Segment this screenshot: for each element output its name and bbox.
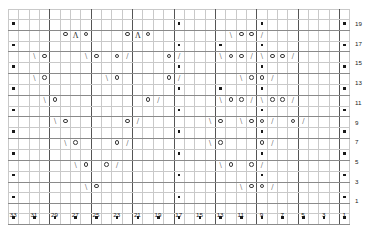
chart-cell[interactable] (143, 139, 153, 150)
chart-cell[interactable]: \ (205, 117, 215, 128)
chart-cell[interactable] (91, 182, 101, 193)
chart-cell[interactable] (236, 63, 246, 74)
chart-cell[interactable] (91, 10, 101, 20)
chart-cell[interactable] (60, 84, 70, 95)
chart-cell[interactable]: / (153, 95, 163, 106)
chart-cell[interactable] (257, 84, 267, 95)
chart-cell[interactable] (122, 74, 132, 85)
chart-cell[interactable] (298, 74, 308, 85)
chart-cell[interactable] (308, 95, 318, 106)
chart-cell[interactable] (71, 128, 81, 139)
chart-cell[interactable] (102, 106, 112, 117)
chart-cell[interactable] (236, 160, 246, 171)
chart-cell[interactable] (329, 106, 339, 117)
chart-cell[interactable] (267, 171, 277, 182)
chart-cell[interactable] (215, 84, 225, 95)
chart-cell[interactable]: / (257, 30, 267, 41)
chart-cell[interactable] (288, 41, 298, 52)
chart-cell[interactable] (91, 30, 101, 41)
chart-cell[interactable] (319, 160, 329, 171)
chart-cell[interactable] (215, 171, 225, 182)
chart-cell[interactable] (133, 171, 143, 182)
chart-cell[interactable] (277, 117, 287, 128)
chart-cell[interactable] (267, 19, 277, 30)
chart-cell[interactable] (277, 106, 287, 117)
chart-cell[interactable] (267, 149, 277, 160)
chart-cell[interactable] (60, 30, 70, 41)
chart-cell[interactable] (133, 10, 143, 20)
chart-cell[interactable] (308, 10, 318, 20)
chart-cell[interactable] (184, 63, 194, 74)
chart-cell[interactable] (19, 160, 29, 171)
chart-cell[interactable] (308, 182, 318, 193)
chart-cell[interactable] (257, 106, 267, 117)
chart-cell[interactable] (277, 182, 287, 193)
chart-cell[interactable] (29, 30, 39, 41)
chart-cell[interactable] (91, 160, 101, 171)
chart-cell[interactable] (288, 128, 298, 139)
chart-cell[interactable] (298, 84, 308, 95)
chart-cell[interactable] (19, 84, 29, 95)
chart-cell[interactable] (29, 128, 39, 139)
chart-cell[interactable] (329, 41, 339, 52)
chart-cell[interactable] (9, 106, 19, 117)
chart-cell[interactable] (329, 30, 339, 41)
chart-cell[interactable]: / (174, 52, 184, 63)
chart-cell[interactable] (153, 128, 163, 139)
chart-cell[interactable] (164, 30, 174, 41)
chart-cell[interactable] (60, 149, 70, 160)
chart-cell[interactable] (122, 106, 132, 117)
chart-cell[interactable]: \ (236, 182, 246, 193)
chart-cell[interactable]: \ (236, 74, 246, 85)
chart-cell[interactable] (9, 149, 19, 160)
chart-cell[interactable] (112, 74, 122, 85)
chart-cell[interactable] (40, 182, 50, 193)
chart-cell[interactable]: Λ (133, 30, 143, 41)
chart-cell[interactable] (133, 95, 143, 106)
chart-cell[interactable] (246, 19, 256, 30)
chart-cell[interactable]: \ (205, 139, 215, 150)
chart-cell[interactable] (164, 193, 174, 204)
chart-cell[interactable] (81, 63, 91, 74)
chart-cell[interactable] (112, 117, 122, 128)
chart-cell[interactable] (50, 30, 60, 41)
chart-cell[interactable] (184, 19, 194, 30)
chart-cell[interactable] (329, 84, 339, 95)
chart-cell[interactable] (340, 30, 350, 41)
chart-cell[interactable] (19, 128, 29, 139)
chart-cell[interactable] (91, 106, 101, 117)
chart-cell[interactable] (184, 84, 194, 95)
chart-cell[interactable] (102, 30, 112, 41)
chart-cell[interactable] (277, 10, 287, 20)
chart-cell[interactable] (50, 52, 60, 63)
chart-cell[interactable] (288, 63, 298, 74)
chart-cell[interactable]: \ (215, 52, 225, 63)
chart-cell[interactable] (226, 63, 236, 74)
chart-cell[interactable] (174, 149, 184, 160)
chart-cell[interactable] (153, 74, 163, 85)
chart-cell[interactable] (319, 74, 329, 85)
chart-cell[interactable] (226, 52, 236, 63)
chart-cell[interactable] (195, 10, 205, 20)
chart-cell[interactable] (340, 160, 350, 171)
chart-cell[interactable]: / (267, 74, 277, 85)
chart-cell[interactable]: / (133, 117, 143, 128)
chart-cell[interactable] (277, 139, 287, 150)
chart-cell[interactable] (143, 160, 153, 171)
chart-cell[interactable] (184, 106, 194, 117)
chart-cell[interactable] (205, 149, 215, 160)
chart-cell[interactable] (102, 139, 112, 150)
chart-cell[interactable] (133, 149, 143, 160)
chart-cell[interactable] (143, 19, 153, 30)
chart-cell[interactable] (195, 160, 205, 171)
chart-cell[interactable] (164, 117, 174, 128)
chart-cell[interactable] (226, 117, 236, 128)
chart-cell[interactable] (277, 41, 287, 52)
chart-cell[interactable] (40, 149, 50, 160)
chart-cell[interactable]: \ (50, 117, 60, 128)
chart-cell[interactable] (195, 41, 205, 52)
chart-cell[interactable] (102, 182, 112, 193)
chart-cell[interactable] (226, 193, 236, 204)
chart-cell[interactable] (133, 52, 143, 63)
chart-cell[interactable] (40, 10, 50, 20)
